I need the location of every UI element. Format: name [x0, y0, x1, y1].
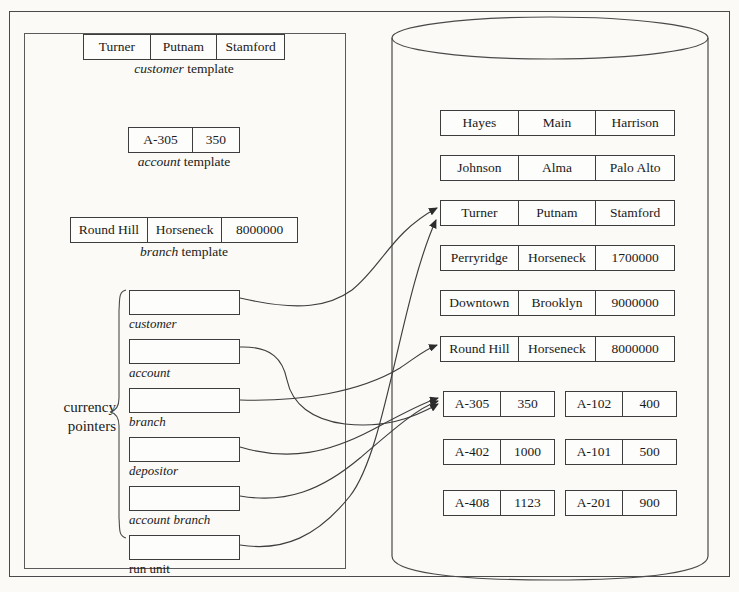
arrow-branch-to-round-hill [240, 345, 437, 400]
arrow-account-branch-to-a305 [240, 401, 438, 498]
pointer-arrow-layer [0, 0, 739, 592]
arrow-account-to-a305 [240, 347, 438, 425]
figure-canvas: Turner Putnam Stamford customer template… [0, 0, 739, 592]
arrow-customer-to-turner [240, 208, 437, 306]
arrow-depositor-to-a305 [240, 398, 438, 454]
